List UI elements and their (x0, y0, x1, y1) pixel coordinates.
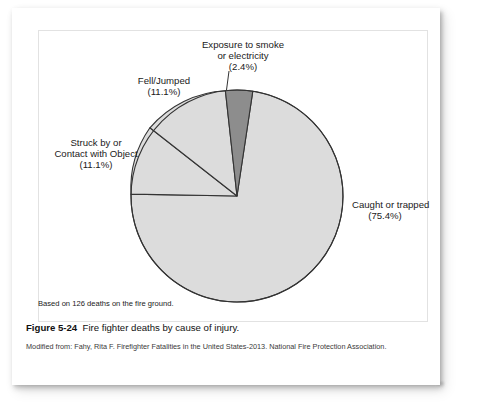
figure-source: Modified from: Fahy, Rita F. Firefighter… (26, 342, 426, 351)
figure-title: Fire fighter deaths by cause of injury. (83, 322, 240, 333)
chart-frame-border (38, 30, 428, 322)
figure-caption: Figure 5-24 Fire fighter deaths by cause… (26, 322, 426, 335)
figure-number: Figure 5-24 (26, 322, 77, 333)
caption-block: Figure 5-24 Fire fighter deaths by cause… (26, 322, 426, 351)
